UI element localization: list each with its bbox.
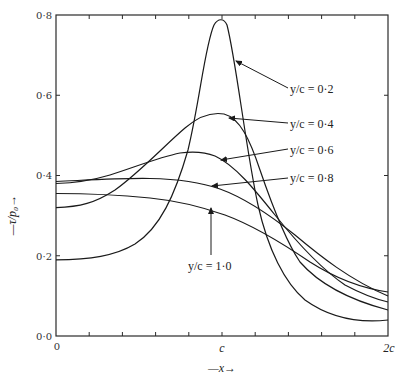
stress-distribution-chart: 0·8 0·6 0·4 0·2 0·0 0 c 2c —x→ —τ/p₀→ y/… [0,0,401,382]
label-y-c-0-2: y/c = 0·2 [290,82,333,96]
y-axis-title: —τ/p₀→ [5,195,19,236]
plot-frame [56,15,388,336]
x-tick-label-2c: 2c [383,341,395,355]
arrow-y-c-0-4 [229,118,288,123]
x-axis-title: —x→ [207,361,236,375]
arrow-y-c-0-6 [221,149,288,160]
y-tick-label-0-4: 0·4 [36,170,52,181]
curve-y-c-0-2 [56,20,388,321]
y-tick-label-0-6: 0·6 [36,90,52,101]
label-y-c-1-0: y/c = 1·0 [188,259,231,273]
label-y-c-0-4: y/c = 0·4 [290,117,333,131]
label-y-c-0-8: y/c = 0·8 [290,171,333,185]
curve-y-c-1-0 [56,194,388,293]
y-tick-label-0-8: 0·8 [36,10,52,21]
y-tick-label-0-0: 0·0 [36,331,52,342]
x-tick-label-c: c [219,341,225,355]
x-tick-label-0: 0 [54,341,60,352]
arrow-y-c-0-2 [236,61,288,88]
curves [56,20,388,321]
curve-y-c-0-6 [56,152,388,302]
label-y-c-0-6: y/c = 0·6 [290,143,333,157]
y-tick-label-0-2: 0·2 [36,251,52,262]
